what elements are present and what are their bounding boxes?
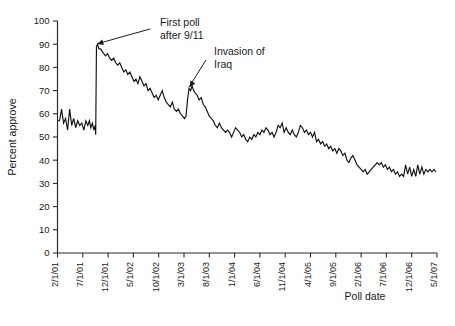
x-tick-label: 8/1/03 [201, 262, 211, 287]
y-tick-label: 0 [44, 247, 49, 258]
x-tick-label: 3/1/03 [176, 262, 186, 287]
annotation-first-poll-after-911: First pollafter 9/11 [97, 16, 204, 45]
y-tick-label: 50 [39, 131, 50, 142]
y-axis-group: 0102030405060708090100 Percent approve [6, 15, 58, 258]
annotation-label-line2: after 9/11 [160, 29, 204, 41]
y-axis-title: Percent approve [6, 98, 18, 175]
x-tick-label: 5/1/02 [125, 262, 135, 287]
y-tick-label: 70 [39, 85, 50, 96]
x-axis-tick-labels: 2/1/017/1/0112/1/015/1/0210/1/023/1/038/… [50, 262, 440, 292]
x-axis-title: Poll date [345, 290, 386, 302]
y-tick-label: 100 [34, 15, 50, 26]
y-tick-label: 30 [39, 178, 50, 189]
y-axis-ticks [53, 21, 58, 253]
x-tick-label: 9/1/05 [328, 262, 338, 287]
x-tick-label: 5/1/07 [429, 262, 439, 287]
y-axis-tick-labels: 0102030405060708090100 [34, 15, 50, 258]
y-tick-label: 40 [39, 155, 50, 166]
x-tick-label: 4/1/05 [303, 262, 313, 287]
x-tick-label: 11/1/04 [277, 262, 287, 291]
annotation-label-line2: Iraq [214, 58, 232, 70]
x-tick-label: 2/1/01 [50, 262, 60, 287]
approval-rating-chart: 0102030405060708090100 Percent approve 2… [0, 0, 455, 326]
x-axis-group: 2/1/017/1/0112/1/015/1/0210/1/023/1/038/… [50, 253, 440, 302]
annotation-label-line1: First poll [160, 16, 200, 28]
annotation-leader-line [98, 29, 150, 44]
annotation-invasion-of-iraq: Invasion ofIraq [189, 45, 265, 87]
y-tick-label: 20 [39, 201, 50, 212]
x-tick-label: 6/1/04 [252, 262, 262, 287]
approval-line [58, 44, 436, 176]
annotation-arrowhead [97, 39, 104, 45]
y-tick-label: 80 [39, 62, 50, 73]
y-tick-label: 10 [39, 224, 50, 235]
x-tick-label: 7/1/01 [75, 262, 85, 287]
y-tick-label: 90 [39, 39, 50, 50]
x-tick-label: 12/1/06 [404, 262, 414, 292]
x-tick-label: 10/1/02 [151, 262, 161, 292]
x-tick-label: 12/1/01 [100, 262, 110, 292]
y-tick-label: 60 [39, 108, 50, 119]
chart-canvas: 0102030405060708090100 Percent approve 2… [0, 0, 455, 326]
annotation-label-line1: Invasion of [214, 45, 265, 57]
x-tick-label: 1/1/04 [227, 262, 237, 287]
x-tick-label: 7/1/06 [378, 262, 388, 287]
x-axis-ticks [58, 253, 438, 258]
chart-annotations: First pollafter 9/11Invasion ofIraq [97, 16, 265, 87]
data-series-group [58, 44, 436, 176]
x-tick-label: 2/1/06 [353, 262, 363, 287]
